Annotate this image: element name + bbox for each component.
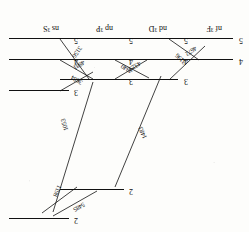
level-np-5 — [60, 38, 124, 39]
level-np-2 — [60, 189, 124, 190]
level-ns-4 — [9, 59, 69, 60]
term-label-nd: nd ³D — [149, 24, 167, 32]
level-number-nf-4: 4 — [239, 57, 243, 65]
level-number-nd-3: 3 — [184, 77, 188, 85]
level-number-ns-3: 3 — [74, 88, 78, 96]
level-ns-2 — [9, 218, 69, 219]
transition-lines — [0, 0, 249, 232]
energy-level-diagram: 5 4 nf ³F 5 4 3 nd ³D 5 4 3 2 np ³P 5 4 … — [0, 0, 249, 232]
term-label-ns: ns ³S — [43, 24, 59, 32]
level-ns-3 — [9, 90, 69, 91]
level-number-ns-5: 5 — [74, 36, 78, 44]
level-number-ns-2: 2 — [74, 216, 78, 224]
level-nf-5 — [169, 38, 233, 39]
level-ns-5 — [9, 38, 69, 39]
level-number-nf-5: 5 — [239, 36, 243, 44]
term-label-np: np ³P — [96, 24, 113, 32]
level-number-np-3: 3 — [129, 77, 133, 85]
level-np-4 — [60, 59, 124, 60]
level-number-nd-5: 5 — [184, 36, 188, 44]
level-number-np-2: 2 — [129, 187, 133, 195]
term-label-nf: nf ³F — [206, 24, 222, 32]
level-number-np-5: 5 — [129, 36, 133, 44]
